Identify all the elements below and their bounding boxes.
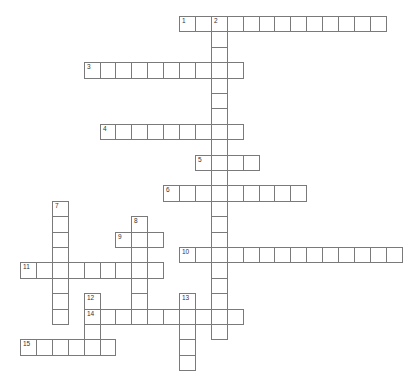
letter-input[interactable] xyxy=(196,156,211,170)
crossword-cell[interactable] xyxy=(354,16,371,32)
letter-input[interactable] xyxy=(307,17,322,31)
letter-input[interactable] xyxy=(180,294,195,309)
crossword-cell[interactable]: 2 xyxy=(211,16,228,32)
letter-input[interactable] xyxy=(212,94,227,108)
crossword-cell[interactable] xyxy=(115,62,132,79)
crossword-cell[interactable] xyxy=(211,247,228,263)
crossword-cell[interactable] xyxy=(211,93,228,109)
crossword-cell[interactable]: 4 xyxy=(100,124,116,140)
crossword-cell[interactable] xyxy=(147,309,164,325)
crossword-cell[interactable] xyxy=(322,247,339,263)
crossword-cell[interactable] xyxy=(370,247,387,263)
crossword-cell[interactable] xyxy=(131,278,148,294)
letter-input[interactable] xyxy=(355,17,370,31)
crossword-cell[interactable] xyxy=(227,155,244,171)
letter-input[interactable] xyxy=(212,186,227,201)
letter-input[interactable] xyxy=(164,310,179,324)
letter-input[interactable] xyxy=(212,32,227,47)
crossword-cell[interactable]: 9 xyxy=(115,232,132,248)
crossword-cell[interactable] xyxy=(227,309,244,325)
letter-input[interactable] xyxy=(196,310,211,324)
letter-input[interactable] xyxy=(101,340,115,355)
crossword-cell[interactable] xyxy=(163,62,180,79)
letter-input[interactable] xyxy=(212,79,227,93)
letter-input[interactable] xyxy=(212,294,227,309)
letter-input[interactable] xyxy=(291,248,306,262)
letter-input[interactable] xyxy=(69,263,84,278)
letter-input[interactable] xyxy=(371,17,386,31)
crossword-cell[interactable]: 11 xyxy=(20,262,37,279)
letter-input[interactable] xyxy=(212,63,227,78)
letter-input[interactable] xyxy=(132,294,147,309)
crossword-cell[interactable] xyxy=(211,78,228,94)
crossword-cell[interactable] xyxy=(147,232,164,248)
crossword-cell[interactable] xyxy=(147,62,164,79)
crossword-cell[interactable] xyxy=(131,293,148,310)
crossword-cell[interactable] xyxy=(179,62,196,79)
crossword-cell[interactable] xyxy=(52,293,69,310)
letter-input[interactable] xyxy=(275,248,290,262)
letter-input[interactable] xyxy=(180,186,195,201)
crossword-cell[interactable] xyxy=(227,247,244,263)
letter-input[interactable] xyxy=(260,248,274,262)
crossword-cell[interactable] xyxy=(100,339,116,356)
letter-input[interactable] xyxy=(196,17,211,31)
crossword-cell[interactable] xyxy=(115,262,132,279)
crossword-cell[interactable] xyxy=(52,216,69,233)
crossword-cell[interactable] xyxy=(52,278,69,294)
letter-input[interactable] xyxy=(228,17,243,31)
crossword-cell[interactable] xyxy=(227,124,244,140)
crossword-cell[interactable] xyxy=(259,185,275,202)
crossword-cell[interactable]: 3 xyxy=(84,62,101,79)
letter-input[interactable] xyxy=(101,125,115,139)
crossword-cell[interactable] xyxy=(36,262,53,279)
letter-input[interactable] xyxy=(180,356,195,370)
letter-input[interactable] xyxy=(164,125,179,139)
letter-input[interactable] xyxy=(21,340,36,355)
letter-input[interactable] xyxy=(323,248,338,262)
letter-input[interactable] xyxy=(212,17,227,31)
letter-input[interactable] xyxy=(85,340,100,355)
letter-input[interactable] xyxy=(116,233,131,247)
letter-input[interactable] xyxy=(244,17,259,31)
letter-input[interactable] xyxy=(228,63,243,78)
crossword-cell[interactable] xyxy=(147,124,164,140)
crossword-cell[interactable] xyxy=(115,124,132,140)
letter-input[interactable] xyxy=(355,248,370,262)
letter-input[interactable] xyxy=(196,248,211,262)
letter-input[interactable] xyxy=(196,186,211,201)
crossword-cell[interactable] xyxy=(131,309,148,325)
crossword-cell[interactable] xyxy=(68,339,85,356)
crossword-cell[interactable] xyxy=(211,278,228,294)
crossword-cell[interactable]: 5 xyxy=(195,155,212,171)
letter-input[interactable] xyxy=(291,186,306,201)
letter-input[interactable] xyxy=(69,340,84,355)
crossword-cell[interactable] xyxy=(52,262,69,279)
crossword-cell[interactable] xyxy=(36,339,53,356)
crossword-cell[interactable] xyxy=(179,324,196,340)
crossword-cell[interactable]: 10 xyxy=(179,247,196,263)
crossword-cell[interactable] xyxy=(195,185,212,202)
crossword-cell[interactable] xyxy=(338,16,355,32)
crossword-cell[interactable] xyxy=(211,185,228,202)
crossword-cell[interactable]: 13 xyxy=(179,293,196,310)
crossword-cell[interactable] xyxy=(163,309,180,325)
crossword-cell[interactable] xyxy=(243,16,260,32)
letter-input[interactable] xyxy=(85,263,100,278)
crossword-cell[interactable] xyxy=(131,232,148,248)
letter-input[interactable] xyxy=(260,186,274,201)
crossword-cell[interactable]: 14 xyxy=(84,309,101,325)
crossword-cell[interactable] xyxy=(243,155,260,171)
crossword-cell[interactable] xyxy=(211,47,228,63)
letter-input[interactable] xyxy=(132,125,147,139)
letter-input[interactable] xyxy=(180,63,195,78)
letter-input[interactable] xyxy=(53,310,68,324)
letter-input[interactable] xyxy=(180,17,195,31)
letter-input[interactable] xyxy=(53,202,68,216)
crossword-cell[interactable] xyxy=(259,16,275,32)
letter-input[interactable] xyxy=(180,325,195,339)
letter-input[interactable] xyxy=(148,63,163,78)
letter-input[interactable] xyxy=(212,310,227,324)
crossword-cell[interactable] xyxy=(211,201,228,217)
letter-input[interactable] xyxy=(132,263,147,278)
